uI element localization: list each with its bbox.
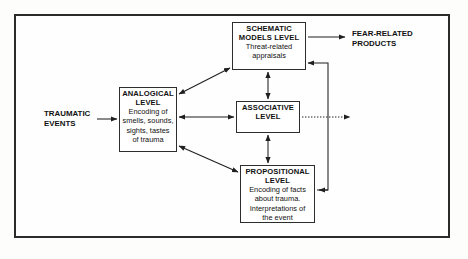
label-fear-related-products: FEAR-RELATED PRODUCTS bbox=[352, 29, 434, 49]
node-schematic-detail-line-2: appraisals bbox=[234, 52, 304, 60]
node-schematic-heading-2: MODELS LEVEL bbox=[234, 34, 304, 43]
node-propositional-level[interactable]: PROPOSITIONAL LEVEL Encoding of facts ab… bbox=[240, 165, 315, 223]
node-propositional-heading-2: LEVEL bbox=[242, 177, 313, 186]
label-fear-related-products-line-2: PRODUCTS bbox=[352, 39, 434, 49]
label-traumatic-events-line-2: EVENTS bbox=[44, 119, 114, 129]
node-schematic-detail-line-1: Threat-related bbox=[234, 43, 304, 51]
node-propositional-detail-line-2: about trauma. bbox=[242, 195, 313, 203]
node-propositional-detail-line-1: Encoding of facts bbox=[242, 186, 313, 194]
diagram-canvas: SCHEMATIC MODELS LEVEL Threat-related ap… bbox=[0, 0, 468, 259]
node-analogical-detail-line-1: Encoding of bbox=[121, 108, 175, 116]
node-analogical-detail-line-3: sights, tastes bbox=[121, 127, 175, 135]
node-schematic-models-level[interactable]: SCHEMATIC MODELS LEVEL Threat-related ap… bbox=[232, 22, 306, 70]
node-associative-heading-2: LEVEL bbox=[238, 113, 298, 122]
node-analogical-heading-2: LEVEL bbox=[121, 99, 175, 108]
label-traumatic-events: TRAUMATIC EVENTS bbox=[44, 109, 114, 129]
node-analogical-level[interactable]: ANALOGICAL LEVEL Encoding of smells, sou… bbox=[119, 87, 177, 152]
node-analogical-detail-line-4: of trauma bbox=[121, 136, 175, 144]
node-analogical-detail-line-2: smells, sounds, bbox=[121, 117, 175, 125]
node-propositional-detail-line-3: Interpretations of bbox=[242, 205, 313, 213]
node-propositional-detail-line-4: the event bbox=[242, 214, 313, 222]
node-associative-level[interactable]: ASSOCIATIVE LEVEL bbox=[236, 101, 300, 133]
label-fear-related-products-line-1: FEAR-RELATED bbox=[352, 29, 434, 39]
label-traumatic-events-line-1: TRAUMATIC bbox=[44, 109, 114, 119]
